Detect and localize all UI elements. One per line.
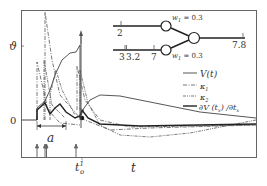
legend-kappa1: κ1 <box>199 82 208 92</box>
w2-label: w1 = 0.3 <box>172 52 203 61</box>
neuron1 <box>161 21 171 31</box>
plot-frame <box>22 11 257 158</box>
input2-time-1: 3 <box>119 52 125 62</box>
input1-time: 2 <box>117 28 123 38</box>
t-out-label: t1o <box>75 160 84 176</box>
input-spike-arrows <box>36 144 78 157</box>
kappa1-curve <box>37 12 256 130</box>
legend-v: V(t) <box>200 69 218 79</box>
legend: V(t) κ1 κ2 ∂V (tx) /∂tx <box>183 69 239 113</box>
chart-canvas: ϑ 0 a t1o t <box>0 0 267 186</box>
network-diagram: 2 w1 = 0.3 3 3.2 7 w1 = 0.3 7.8 <box>113 14 247 62</box>
neuron2 <box>161 45 171 55</box>
w1-label: w1 = 0.3 <box>172 14 203 23</box>
t-axis-label: t <box>131 161 136 175</box>
theta-label: ϑ <box>9 40 17 53</box>
input2-time-3: 7 <box>151 52 157 62</box>
spike-dot <box>80 116 84 120</box>
input2-time-2: 3.2 <box>126 52 140 62</box>
output-time: 7.8 <box>232 40 247 50</box>
legend-kappa2: κ2 <box>199 93 208 103</box>
interval-a-label: a <box>47 131 54 145</box>
zero-label: 0 <box>10 115 16 126</box>
legend-dv: ∂V (tx) /∂tx <box>199 103 239 113</box>
output-neuron <box>189 33 200 44</box>
